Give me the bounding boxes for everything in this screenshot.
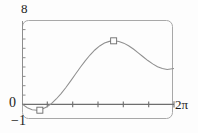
y-origin-label: 0 [9, 96, 16, 109]
y-min-label: −1 [11, 114, 26, 127]
local-minimum-marker[interactable] [37, 107, 43, 113]
function-plot [0, 0, 198, 133]
local-maximum-marker[interactable] [111, 38, 117, 44]
y-max-label: 8 [21, 2, 28, 15]
plot-screenshot: 8 0 −1 2π [0, 0, 198, 133]
x-max-label: 2π [175, 98, 188, 111]
plot-curve [23, 41, 175, 110]
